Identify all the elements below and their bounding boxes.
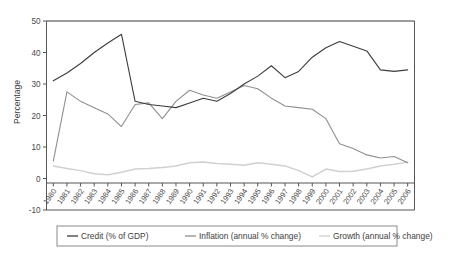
x-tick-label: 2003 — [355, 187, 372, 206]
legend-item-label: Growth (annual % change) — [333, 231, 433, 241]
y-tick-label: 20 — [31, 112, 41, 121]
x-tick-label: 1994 — [232, 187, 249, 206]
x-tick-label: 1981 — [55, 187, 72, 206]
chart-legend: Credit (% of GDP)Inflation (annual % cha… — [57, 226, 433, 246]
x-tick-label: 1995 — [246, 187, 263, 206]
x-tick-label: 1987 — [137, 187, 154, 206]
y-tick-label: 10 — [31, 143, 41, 152]
legend-item-label: Credit (% of GDP) — [81, 231, 149, 241]
y-tick-label: 30 — [31, 80, 41, 89]
line-chart: Percentage -1001020304050 19801981198219… — [0, 0, 454, 256]
x-tick-label: 1985 — [110, 187, 127, 206]
series-line-inflation — [53, 86, 407, 163]
x-axis-ticks: 1980198119821983198419851986198719881989… — [41, 183, 412, 206]
x-tick-label: 1988 — [150, 187, 167, 206]
x-tick-label: 1999 — [300, 187, 317, 206]
x-tick-label: 1989 — [164, 187, 181, 206]
plot-axes — [47, 21, 415, 210]
y-tick-label: 0 — [36, 175, 41, 184]
y-tick-label: 50 — [31, 17, 41, 26]
x-tick-label: 1992 — [205, 187, 222, 206]
x-tick-label: 2006 — [396, 187, 413, 206]
y-axis-ticks: -1001020304050 — [29, 17, 47, 215]
x-tick-label: 2000 — [314, 187, 331, 206]
x-tick-label: 1991 — [191, 187, 208, 206]
x-tick-label: 1998 — [287, 187, 304, 206]
x-tick-label: 2004 — [368, 187, 385, 206]
x-tick-label: 2002 — [341, 187, 358, 206]
chart-figure: Percentage -1001020304050 19801981198219… — [0, 0, 454, 256]
x-tick-label: 1990 — [178, 187, 195, 206]
x-tick-label: 2001 — [328, 187, 345, 206]
x-tick-label: 1997 — [273, 187, 290, 206]
y-tick-label: -10 — [29, 206, 41, 215]
legend-item-label: Inflation (annual % change) — [199, 231, 301, 241]
series-line-credit — [53, 34, 407, 107]
series-lines — [53, 34, 407, 177]
x-tick-label: 1980 — [41, 187, 58, 206]
x-tick-label: 1983 — [82, 187, 99, 206]
x-tick-label: 1984 — [96, 187, 113, 206]
x-tick-label: 1982 — [69, 187, 86, 206]
y-tick-label: 40 — [31, 49, 41, 58]
x-tick-label: 1986 — [123, 187, 140, 206]
series-line-growth — [53, 162, 407, 177]
x-tick-label: 1993 — [219, 187, 236, 206]
y-axis-title: Percentage — [12, 80, 22, 124]
x-tick-label: 1996 — [259, 187, 276, 206]
x-tick-label: 2005 — [382, 187, 399, 206]
y-axis-title-text: Percentage — [12, 80, 22, 124]
